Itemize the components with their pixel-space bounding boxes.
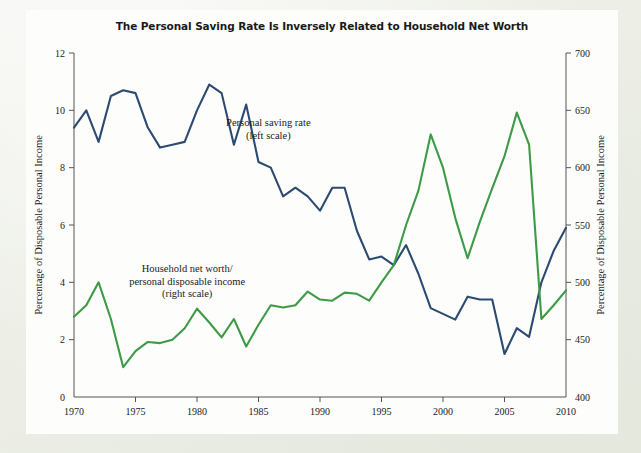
series-line-household-net-worth	[74, 113, 566, 368]
line-chart-svg: 0246810124004505005506006507001970197519…	[26, 10, 618, 434]
y2-axis-tick-label-550: 550	[575, 220, 590, 231]
y-axis-tick-label-4: 4	[60, 277, 65, 288]
x-axis-tick-label-1985: 1985	[249, 406, 269, 417]
chart-annotation-2: Household net worth/personal disposable …	[129, 263, 245, 300]
annotation-line: (left scale)	[246, 130, 291, 142]
chart-plot-area: 0246810124004505005506006507001970197519…	[26, 10, 618, 434]
annotation-line: (right scale)	[162, 288, 213, 300]
y2-axis-tick-label-500: 500	[575, 277, 590, 288]
y-axis-title: Percentage of Disposable Personal Income	[33, 135, 44, 315]
y-axis-tick-label-6: 6	[60, 220, 65, 231]
figure-panel: The Personal Saving Rate Is Inversely Re…	[26, 10, 618, 434]
y-axis-tick-label-10: 10	[55, 105, 65, 116]
y2-axis-tick-label-400: 400	[575, 392, 590, 403]
page-background: The Personal Saving Rate Is Inversely Re…	[0, 0, 641, 453]
annotation-line: Household net worth/	[142, 263, 233, 274]
annotation-line: personal disposable income	[129, 276, 245, 287]
y-axis-tick-label-8: 8	[60, 162, 65, 173]
x-axis-tick-label-2010: 2010	[556, 406, 576, 417]
y2-axis-tick-label-700: 700	[575, 48, 590, 59]
y-axis-tick-label-12: 12	[55, 48, 65, 59]
x-axis-tick-label-1980: 1980	[187, 406, 207, 417]
x-axis-tick-label-2005: 2005	[495, 406, 515, 417]
annotation-line: Personal saving rate	[226, 117, 311, 128]
x-axis-tick-label-1970: 1970	[64, 406, 84, 417]
y2-axis-title: Percentage of Disposable Personal Income	[595, 135, 606, 315]
y2-axis-tick-label-650: 650	[575, 105, 590, 116]
y2-axis-tick-label-450: 450	[575, 334, 590, 345]
x-axis-tick-label-1990: 1990	[310, 406, 330, 417]
x-axis-tick-label-2000: 2000	[433, 406, 453, 417]
y-axis-tick-label-0: 0	[60, 392, 65, 403]
series-line-personal-saving-rate	[74, 85, 566, 354]
x-axis-tick-label-1995: 1995	[372, 406, 392, 417]
axis-frame	[74, 53, 566, 397]
x-axis-tick-label-1975: 1975	[126, 406, 146, 417]
y2-axis-tick-label-600: 600	[575, 162, 590, 173]
y-axis-tick-label-2: 2	[60, 334, 65, 345]
